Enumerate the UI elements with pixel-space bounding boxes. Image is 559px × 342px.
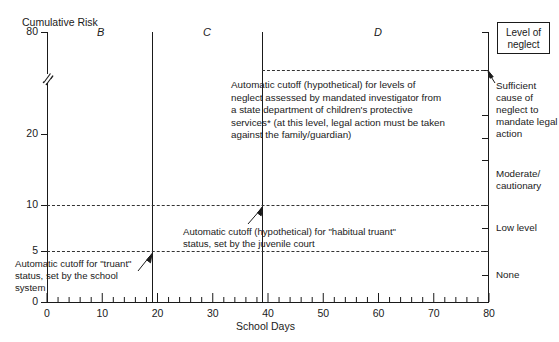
threshold-line-habitual-truant (47, 205, 489, 206)
right-tick-sufficient-low (482, 138, 489, 139)
annotation-neglect-cutoff: Automatic cutoff (hypothetical) for leve… (231, 79, 449, 142)
y-tick-label-5: 5 (8, 244, 38, 256)
legend-title-text: Level of neglect (506, 27, 541, 50)
chart-figure: Cumulative Risk 80 20 10 5 0 School Days… (0, 0, 559, 342)
region-divider-day40 (262, 32, 263, 303)
right-tick-top (482, 32, 489, 33)
x-tick-label-30: 30 (198, 307, 228, 319)
arrow-truant (138, 254, 152, 272)
axis-break-icon (43, 73, 53, 85)
right-tick-low-level (482, 228, 489, 229)
y-tick-20 (41, 134, 48, 135)
region-divider-day20 (152, 32, 153, 303)
x-tick-label-70: 70 (419, 307, 449, 319)
region-label-b: B (97, 26, 104, 38)
right-tick-bottom (482, 302, 489, 303)
region-label-c: C (203, 26, 211, 38)
legend-title-box: Level of neglect (497, 22, 550, 54)
x-tick-label-80: 80 (474, 307, 504, 319)
x-tick-label-40: 40 (253, 307, 283, 319)
right-tick-sufficient-mid (482, 115, 489, 116)
x-axis-title: School Days (236, 320, 295, 332)
arrow-habitual-truant (248, 207, 263, 225)
legend-item-low-level: Low level (496, 222, 537, 234)
x-tick-label-0: 0 (32, 307, 62, 319)
legend-item-none: None (496, 269, 519, 281)
y-tick-label-10: 10 (8, 198, 38, 210)
x-tick-label-50: 50 (308, 307, 338, 319)
x-tick-label-20: 20 (143, 307, 173, 319)
threshold-line-truant (47, 251, 489, 252)
threshold-line-neglect (262, 70, 489, 71)
x-tick-label-10: 10 (87, 307, 117, 319)
y-tick-label-80: 80 (8, 25, 38, 37)
y-tick-label-0: 0 (8, 295, 38, 307)
y-tick-80 (41, 32, 48, 33)
axis-break-slashes (44, 74, 54, 86)
y-tick-label-20: 20 (8, 127, 38, 139)
x-axis-line (47, 302, 489, 303)
legend-item-moderate: Moderate/ cautionary (496, 168, 558, 192)
x-tick-label-60: 60 (364, 307, 394, 319)
arrow-neglect-cutoff (488, 71, 495, 84)
legend-item-sufficient: Sufficient cause of neglect to mandate l… (496, 80, 558, 140)
annotation-truant-cutoff: Automatic cutoff for "truant" status, se… (15, 258, 139, 295)
annotation-habitual-truant-cutoff: Automatic cutoff (hypothetical) for "hab… (183, 226, 405, 250)
right-tick-moderate-top (482, 160, 489, 161)
region-label-d: D (374, 26, 382, 38)
right-axis-line (488, 32, 489, 303)
right-tick-none (482, 275, 489, 276)
